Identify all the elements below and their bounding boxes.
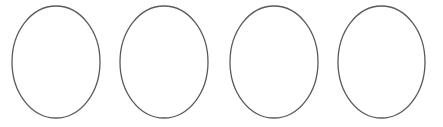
ellipse-3 — [230, 6, 318, 118]
ellipse-2 — [120, 6, 208, 118]
ellipse-diagram — [0, 0, 443, 127]
ellipse-1 — [12, 6, 100, 118]
ellipse-4 — [338, 6, 425, 118]
diagram-canvas — [0, 0, 443, 127]
